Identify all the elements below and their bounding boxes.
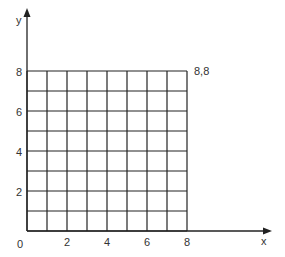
grid-lines bbox=[27, 71, 187, 231]
y-tick-2: 2 bbox=[16, 186, 22, 198]
x-tick-2: 2 bbox=[64, 236, 70, 248]
x-axis-arrow-icon bbox=[263, 228, 272, 235]
coordinate-grid-diagram: y x 0 2 4 6 8 2 4 6 8 8,8 bbox=[0, 0, 285, 257]
x-axis-label: x bbox=[261, 235, 267, 247]
x-tick-8: 8 bbox=[184, 236, 190, 248]
y-axis-arrow-icon bbox=[24, 8, 31, 17]
y-tick-8: 8 bbox=[16, 66, 22, 78]
x-tick-4: 4 bbox=[104, 236, 110, 248]
corner-point-label: 8,8 bbox=[194, 65, 209, 77]
y-axis-label: y bbox=[16, 14, 22, 26]
x-tick-0: 0 bbox=[17, 238, 23, 250]
x-tick-6: 6 bbox=[144, 236, 150, 248]
y-tick-6: 6 bbox=[16, 106, 22, 118]
y-tick-4: 4 bbox=[16, 146, 22, 158]
